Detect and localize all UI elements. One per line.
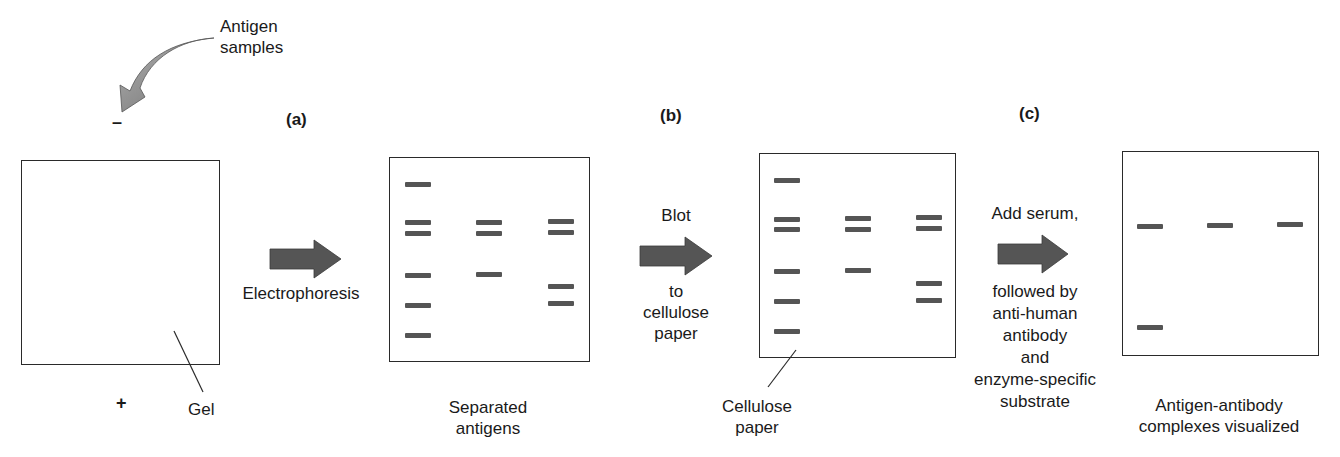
protein-band (548, 301, 574, 306)
separated-antigens-caption: Separated antigens (428, 397, 548, 439)
protein-band (916, 226, 942, 231)
protein-band (1137, 224, 1163, 229)
protein-band (476, 231, 502, 236)
protein-band (548, 230, 574, 235)
separated-caption-line2: antigens (428, 418, 548, 439)
antigen-samples-line2: samples (220, 37, 283, 58)
cellulose-caption-line1: Cellulose (697, 396, 817, 417)
add-serum-label: Add serum, (975, 203, 1095, 224)
protein-band (916, 215, 942, 220)
protein-band (1137, 325, 1163, 330)
separated-antigens-panel (389, 157, 590, 362)
protein-band (774, 178, 800, 183)
gel-label: Gel (188, 399, 214, 420)
serum-line-6: substrate (960, 391, 1110, 413)
blot-to-cellulose-label: to cellulose paper (626, 281, 726, 344)
arrow-right-icon-b (640, 237, 714, 277)
protein-band (774, 299, 800, 304)
step-c-letter: (c) (1019, 104, 1040, 124)
protein-band (774, 269, 800, 274)
blot-line-to: to (626, 281, 726, 302)
step-a-letter: (a) (286, 110, 307, 130)
protein-band (476, 272, 502, 277)
protein-band (405, 220, 431, 225)
cellulose-caption-line2: paper (697, 417, 817, 438)
protein-band (916, 298, 942, 303)
gel-panel (21, 160, 220, 365)
protein-band (1277, 222, 1303, 227)
electrophoresis-label: Electrophoresis (228, 283, 374, 304)
serum-line-2: anti-human (960, 303, 1110, 325)
serum-line-5: enzyme-specific (960, 369, 1110, 391)
positive-electrode-sign: + (116, 394, 127, 412)
protein-band (845, 227, 871, 232)
visualized-caption: Antigen-antibody complexes visualized (1119, 395, 1319, 437)
protein-band (1207, 223, 1233, 228)
step-b-letter: (b) (660, 106, 682, 126)
protein-band (916, 281, 942, 286)
protein-band (845, 268, 871, 273)
protein-band (774, 329, 800, 334)
protein-band (548, 219, 574, 224)
protein-band (476, 220, 502, 225)
separated-caption-line1: Separated (428, 397, 548, 418)
serum-line-1: followed by (960, 281, 1110, 303)
arrow-right-icon-a (270, 240, 342, 280)
serum-detail-label: followed by anti-human antibody and enzy… (960, 281, 1110, 413)
cellulose-paper-panel (759, 153, 956, 358)
visualized-caption-line2: complexes visualized (1119, 416, 1319, 437)
cellulose-paper-caption: Cellulose paper (697, 396, 817, 438)
antigen-samples-line1: Antigen (220, 16, 283, 37)
serum-line-4: and (960, 347, 1110, 369)
protein-band (405, 273, 431, 278)
protein-band (548, 284, 574, 289)
antigen-samples-label: Antigen samples (220, 16, 283, 58)
blot-line-cellulose: cellulose (626, 302, 726, 323)
protein-band (405, 231, 431, 236)
protein-band (405, 303, 431, 308)
blot-line-paper: paper (626, 323, 726, 344)
blot-label: Blot (636, 205, 716, 226)
protein-band (774, 217, 800, 222)
serum-line-3: antibody (960, 325, 1110, 347)
protein-band (405, 333, 431, 338)
arrow-right-icon-c (998, 235, 1070, 275)
protein-band (845, 216, 871, 221)
negative-electrode-sign: – (112, 113, 122, 131)
protein-band (405, 182, 431, 187)
protein-band (774, 227, 800, 232)
visualized-caption-line1: Antigen-antibody (1119, 395, 1319, 416)
